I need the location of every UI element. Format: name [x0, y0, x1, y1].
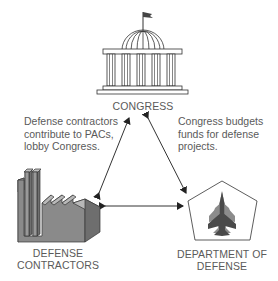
annotation-left: Defense contractors contribute to PACs, …	[24, 115, 118, 153]
annotation-right-line: projects.	[178, 140, 263, 153]
node-label-line: CONTRACTORS	[12, 259, 104, 271]
annotation-left-line: Defense contractors	[24, 115, 118, 128]
node-label-contractors: DEFENSE CONTRACTORS	[12, 247, 104, 271]
annotation-right: Congress budgets funds for defense proje…	[178, 115, 263, 153]
pentagon-jet-icon	[188, 181, 257, 240]
node-label-line: DEFENSE	[176, 260, 268, 272]
annotation-left-line: contribute to PACs,	[24, 128, 118, 141]
node-label-dod: DEPARTMENT OF DEFENSE	[176, 248, 268, 272]
node-label-line: DEFENSE	[12, 247, 104, 259]
annotation-right-line: Congress budgets	[178, 115, 263, 128]
factory-icon	[18, 169, 100, 242]
node-label-congress: CONGRESS	[100, 100, 186, 112]
annotation-left-line: lobby Congress.	[24, 140, 118, 153]
capitol-building-icon	[97, 12, 188, 94]
node-label-line: DEPARTMENT OF	[176, 248, 268, 260]
annotation-right-line: funds for defense	[178, 128, 263, 141]
